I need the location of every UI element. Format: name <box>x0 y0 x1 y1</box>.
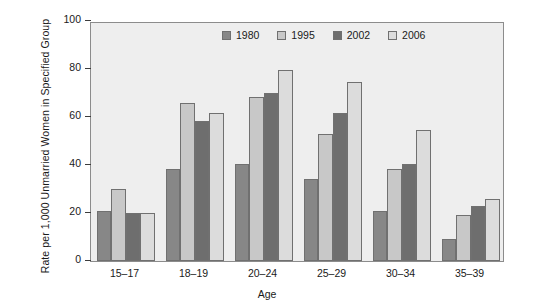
bar <box>304 179 319 261</box>
y-tick-label: 40 <box>53 157 81 169</box>
bar-group <box>91 23 160 261</box>
bar <box>249 97 264 261</box>
plot-area: 020406080100 <box>90 22 504 262</box>
bar-chart-figure: Rate per 1,000 Unmarried Women in Specif… <box>0 0 534 308</box>
bar <box>126 213 141 261</box>
y-axis-title: Rate per 1,000 Unmarried Women in Specif… <box>39 1 51 291</box>
bar-group <box>160 23 229 261</box>
bar <box>402 164 417 261</box>
bar <box>209 113 224 261</box>
legend-label: 1980 <box>236 30 259 41</box>
y-tick-label: 0 <box>53 253 81 265</box>
legend-swatch-icon <box>277 31 286 40</box>
legend-swatch-icon <box>388 31 397 40</box>
y-tick-label: 80 <box>53 61 81 73</box>
bar-group <box>367 23 436 261</box>
bar <box>180 103 195 261</box>
bar <box>111 189 126 261</box>
bar <box>471 206 486 261</box>
legend-label: 2002 <box>347 30 370 41</box>
bar <box>166 169 181 261</box>
x-tick-label: 15–17 <box>110 267 139 279</box>
bar-group <box>436 23 505 261</box>
bar <box>264 93 279 261</box>
legend-item: 1980 <box>222 30 259 41</box>
bar <box>373 211 388 261</box>
legend-label: 1995 <box>291 30 314 41</box>
legend-item: 2006 <box>388 30 425 41</box>
y-tick-label: 100 <box>53 13 81 25</box>
bar <box>442 239 457 261</box>
x-tick-label: 20–24 <box>248 267 277 279</box>
bar <box>278 70 293 261</box>
bar <box>195 121 210 261</box>
bar <box>347 82 362 261</box>
legend-swatch-icon <box>222 31 231 40</box>
y-tick-label: 20 <box>53 205 81 217</box>
bar <box>485 199 500 261</box>
x-tick-label: 25–29 <box>317 267 346 279</box>
bar <box>235 164 250 261</box>
x-tick-label: 35–39 <box>455 267 484 279</box>
bar <box>387 169 402 261</box>
bar-group <box>229 23 298 261</box>
bar <box>333 113 348 261</box>
x-tick-label: 30–34 <box>386 267 415 279</box>
bar <box>456 215 471 261</box>
x-axis-title: Age <box>0 288 534 300</box>
legend-item: 2002 <box>333 30 370 41</box>
bar-group <box>298 23 367 261</box>
legend-item: 1995 <box>277 30 314 41</box>
bar <box>416 130 431 261</box>
y-tick-label: 60 <box>53 109 81 121</box>
bar <box>97 211 112 261</box>
bar <box>318 134 333 261</box>
y-tick-mark <box>85 20 91 21</box>
chart-legend: 1980199520022006 <box>222 30 425 41</box>
legend-swatch-icon <box>333 31 342 40</box>
x-tick-label: 18–19 <box>179 267 208 279</box>
bar <box>140 213 155 261</box>
legend-label: 2006 <box>402 30 425 41</box>
